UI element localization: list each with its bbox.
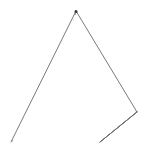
pyramid-diagram-svg [0, 0, 148, 150]
pyramid-figure [0, 0, 148, 150]
pyramid-front-face-masks [13, 13, 136, 141]
apex-vertex-marker [75, 10, 78, 13]
